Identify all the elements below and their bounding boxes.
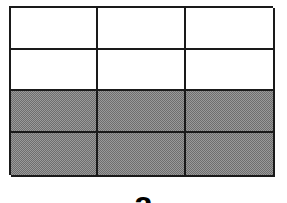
grid-cell-r2-c3	[186, 50, 275, 91]
grid-cell-shaded-r3-c3	[186, 91, 275, 133]
grid-cell-shaded-r4-c3	[186, 133, 275, 177]
grid-cell-shaded-r4-c1	[11, 133, 98, 177]
grid-cell-r1-c1	[11, 8, 98, 50]
figure-label: a	[0, 186, 287, 203]
grid-cell-r2-c1	[11, 50, 98, 91]
grid-cell-r2-c2	[98, 50, 186, 91]
grid-cell-shaded-r3-c2	[98, 91, 186, 133]
grid-cell-r1-c2	[98, 8, 186, 50]
grid-cell-shaded-r3-c1	[11, 91, 98, 133]
grid-cell-shaded-r4-c2	[98, 133, 186, 177]
grid-cell-r1-c3	[186, 8, 275, 50]
fraction-grid	[9, 6, 273, 175]
